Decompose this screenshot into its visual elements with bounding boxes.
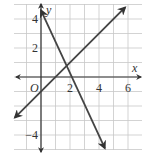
x-tick-label: 2 [67, 81, 73, 95]
x-tick-label: 4 [96, 81, 102, 95]
y-axis-label: y [45, 3, 52, 17]
coordinate-plane: x y O 24642−4 [0, 0, 152, 165]
y-tick-label: 2 [32, 41, 38, 55]
x-tick-label: 6 [125, 81, 131, 95]
y-tick-label: 4 [32, 12, 38, 26]
origin-label: O [30, 81, 39, 95]
y-tick-label: −4 [25, 128, 38, 142]
line-1 [41, 10, 105, 148]
x-axis-label: x [131, 61, 138, 75]
